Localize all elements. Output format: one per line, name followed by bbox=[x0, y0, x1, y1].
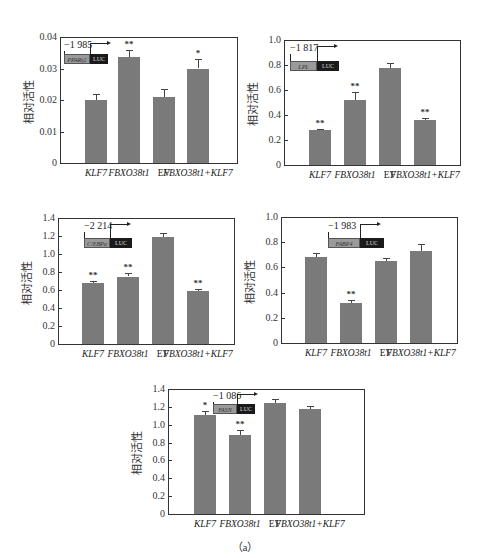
bar-klf7 bbox=[305, 257, 327, 343]
y-tick bbox=[282, 343, 285, 344]
significance-marker: ** bbox=[119, 40, 139, 49]
error-cap bbox=[125, 273, 132, 274]
y-tick bbox=[61, 69, 64, 70]
error-cap bbox=[418, 244, 425, 245]
y-tick bbox=[59, 272, 62, 273]
bar-fbxo38t1-klf7 bbox=[187, 69, 209, 164]
error-cap bbox=[387, 63, 394, 64]
luciferase-box: LUC bbox=[110, 238, 132, 248]
x-tick-label: FBXO38t1+KLF7 bbox=[385, 170, 465, 181]
bar-fbxo38t1 bbox=[117, 277, 139, 345]
tss-arrow-line bbox=[90, 43, 108, 44]
error-cap bbox=[90, 281, 97, 282]
tss-arrow-icon bbox=[254, 392, 258, 396]
bar-ev bbox=[375, 261, 397, 343]
y-tick bbox=[59, 344, 62, 345]
error-bar bbox=[198, 59, 199, 68]
tss-arrow-line bbox=[360, 224, 378, 225]
y-tick-label: 0.8 bbox=[248, 237, 278, 247]
y-tick-label: 0 bbox=[248, 338, 278, 348]
promoter-gene-box: FABP4 bbox=[328, 238, 360, 248]
y-tick bbox=[61, 37, 64, 38]
error-cap bbox=[383, 258, 390, 259]
y-tick bbox=[59, 290, 62, 291]
figure-caption: （a） bbox=[225, 538, 265, 554]
bar-ev bbox=[152, 237, 174, 344]
error-cap bbox=[317, 129, 324, 130]
y-tick-label: 0 bbox=[251, 160, 281, 170]
tss-arrow-icon bbox=[107, 41, 111, 45]
y-tick bbox=[61, 163, 64, 164]
y-tick bbox=[169, 407, 172, 408]
tss-arrow-stem bbox=[317, 46, 318, 61]
tss-arrow-icon bbox=[127, 222, 131, 226]
y-tick bbox=[169, 514, 172, 515]
y-axis-label: 相对活性 bbox=[241, 257, 257, 307]
bar-ev bbox=[264, 403, 286, 514]
y-tick bbox=[169, 443, 172, 444]
y-tick-label: 0.01 bbox=[27, 127, 57, 137]
significance-marker: ** bbox=[341, 290, 361, 299]
error-cap bbox=[313, 253, 320, 254]
y-tick-label: 1.4 bbox=[135, 384, 165, 394]
y-tick bbox=[59, 308, 62, 309]
error-cap bbox=[352, 92, 359, 93]
y-tick-label: 1.2 bbox=[25, 231, 55, 241]
y-tick-label: 0.03 bbox=[27, 64, 57, 74]
y-tick-label: 0.04 bbox=[27, 32, 57, 42]
error-cap bbox=[126, 50, 133, 51]
error-cap bbox=[161, 89, 168, 90]
y-tick bbox=[285, 65, 288, 66]
bar-fbxo38t1-klf7 bbox=[187, 291, 209, 344]
bar-fbxo38t1-klf7 bbox=[414, 120, 436, 165]
bar-fbxo38t1 bbox=[344, 100, 366, 165]
tss-arrow-stem bbox=[360, 224, 361, 238]
bar-klf7 bbox=[309, 130, 331, 165]
error-cap bbox=[195, 59, 202, 60]
y-tick bbox=[285, 140, 288, 141]
significance-marker: ** bbox=[188, 279, 208, 288]
y-tick-label: 0 bbox=[25, 339, 55, 349]
promoter-gene-box: C/EBPα bbox=[84, 238, 110, 248]
bar-fbxo38t1 bbox=[118, 57, 140, 163]
bar-klf7 bbox=[194, 415, 216, 514]
y-axis-label: 相对活性 bbox=[20, 77, 36, 127]
tss-arrow-stem bbox=[110, 224, 111, 238]
y-axis-label: 相对活性 bbox=[244, 79, 260, 129]
error-bar bbox=[421, 244, 422, 251]
y-tick-label: 1.0 bbox=[248, 212, 278, 222]
promoter-position: −2 214 bbox=[84, 221, 112, 231]
promoter-gene-box: LPL bbox=[290, 61, 317, 71]
y-tick-label: 0 bbox=[27, 158, 57, 168]
y-axis-label: 相对活性 bbox=[18, 258, 34, 308]
y-tick bbox=[61, 100, 64, 101]
error-cap bbox=[422, 118, 429, 119]
luciferase-box: LUC bbox=[317, 61, 339, 71]
significance-marker: * bbox=[195, 401, 215, 410]
significance-marker: ** bbox=[345, 82, 365, 91]
y-axis-label: 相对活性 bbox=[128, 428, 144, 478]
y-tick bbox=[169, 389, 172, 390]
error-cap bbox=[272, 399, 279, 400]
y-tick bbox=[285, 165, 288, 166]
y-tick-label: 0.2 bbox=[25, 321, 55, 331]
error-bar bbox=[129, 50, 130, 58]
error-bar bbox=[355, 92, 356, 100]
error-cap bbox=[195, 289, 202, 290]
y-tick bbox=[282, 217, 285, 218]
y-tick bbox=[282, 267, 285, 268]
y-tick bbox=[282, 242, 285, 243]
tss-arrow-icon bbox=[377, 222, 381, 226]
bar-klf7 bbox=[85, 100, 107, 163]
x-tick-label: FBXO38t1+KLF7 bbox=[270, 519, 350, 530]
promoter-position: −1 985 bbox=[64, 40, 92, 50]
luciferase-box: LUC bbox=[237, 404, 255, 414]
bar-klf7 bbox=[82, 283, 104, 344]
tss-arrow-icon bbox=[334, 44, 338, 48]
y-tick bbox=[169, 478, 172, 479]
bar-ev bbox=[153, 97, 175, 163]
y-tick bbox=[169, 460, 172, 461]
x-tick-label: FBXO38t1+KLF7 bbox=[158, 168, 238, 179]
significance-marker: * bbox=[188, 49, 208, 58]
y-tick bbox=[282, 293, 285, 294]
